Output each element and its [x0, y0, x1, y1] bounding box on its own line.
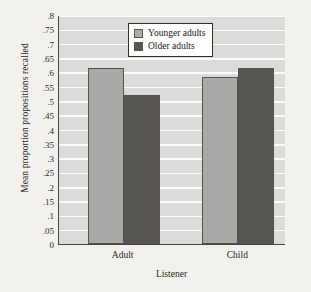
y-axis-tick-label: .05 — [28, 226, 54, 235]
y-axis-tick-labels: .8.75.7.65.6.55.5.45.4.35.3.25.2.15.1.05… — [28, 16, 54, 245]
bar-child-younger — [202, 77, 238, 244]
y-axis-tick-label: .8 — [28, 12, 54, 21]
legend-swatch-icon-younger-adults — [134, 29, 143, 38]
y-axis-tick-label: .25 — [28, 169, 54, 178]
y-axis-tick-label: .1 — [28, 212, 54, 221]
legend-item-older-adults: Older adults — [134, 40, 205, 53]
y-axis-tick-label: .5 — [28, 97, 54, 106]
y-axis-tick-label: .35 — [28, 140, 54, 149]
y-axis-tick-label: .15 — [28, 198, 54, 207]
x-axis-title: Listener — [58, 269, 285, 279]
y-axis-tick-label: .75 — [28, 26, 54, 35]
legend-label-younger-adults: Younger adults — [148, 29, 205, 39]
y-axis-tick-label: .6 — [28, 69, 54, 78]
y-axis-tick-label: .65 — [28, 54, 54, 63]
y-axis-tick-label: .3 — [28, 155, 54, 164]
bar-adult-older — [124, 95, 160, 244]
bar-chart-figure: Mean proportion propositions recalled .8… — [0, 0, 311, 292]
x-axis-tick-label: Adult — [112, 250, 134, 260]
y-axis-tick-label: .55 — [28, 83, 54, 92]
y-axis-tick-label: .4 — [28, 126, 54, 135]
y-axis-tick-label: .7 — [28, 40, 54, 49]
bar-child-older — [238, 68, 274, 244]
x-axis-tick-label: Child — [227, 250, 248, 260]
legend-label-older-adults: Older adults — [148, 42, 195, 52]
y-axis-tick-label: .45 — [28, 112, 54, 121]
y-axis-tick-label: 0 — [28, 241, 54, 250]
legend-swatch-icon-older-adults — [134, 42, 143, 51]
y-axis-tick-label: .2 — [28, 183, 54, 192]
bar-adult-younger — [88, 68, 124, 244]
legend-item-younger-adults: Younger adults — [134, 27, 205, 40]
chart-legend: Younger adults Older adults — [128, 23, 213, 57]
